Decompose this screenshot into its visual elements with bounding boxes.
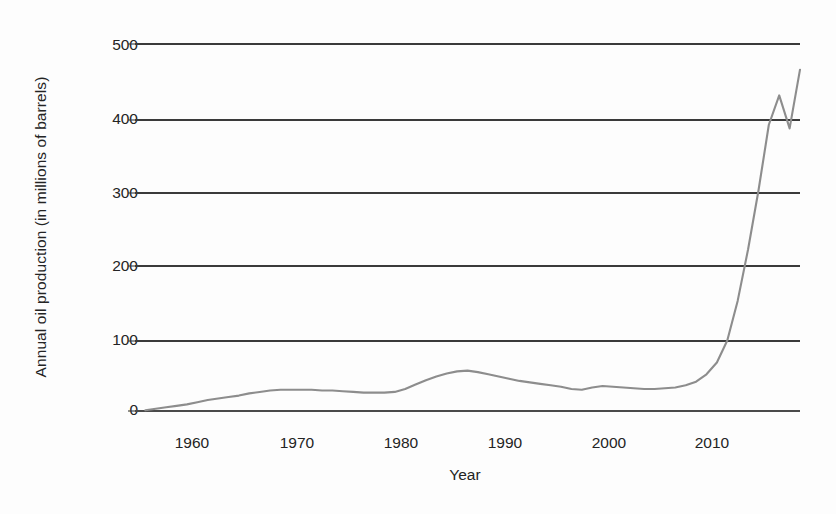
y-tick-marks-group [128,44,135,411]
data-series-line [145,70,800,411]
gridlines-group [135,44,800,411]
chart-figure: Annual oil production (in millions of ba… [0,0,836,514]
plot-canvas [0,0,836,514]
